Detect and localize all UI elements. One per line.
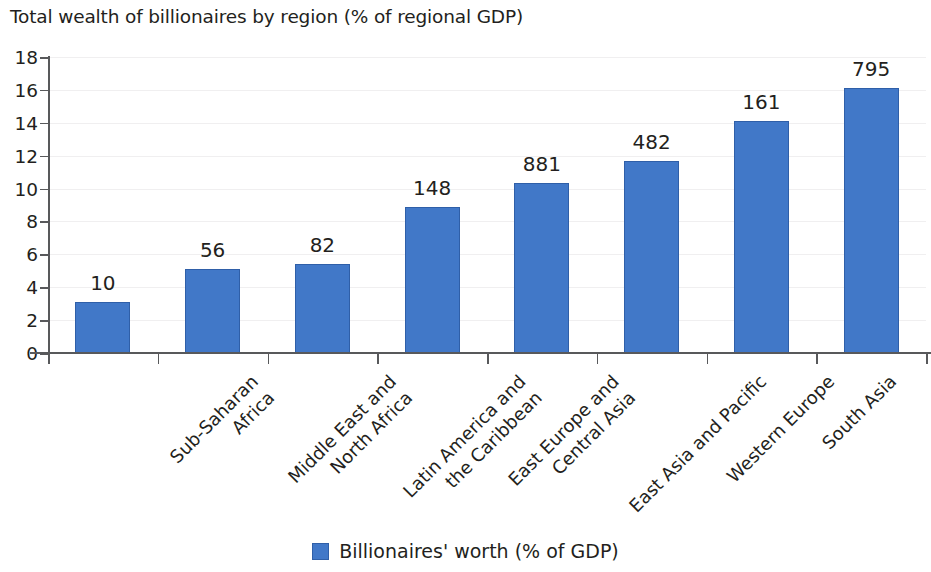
y-axis-tick-mark (40, 254, 49, 256)
legend-swatch-billionaires-worth (312, 543, 329, 560)
y-axis-tick-label: 10 (2, 178, 38, 199)
y-axis-tick-mark (40, 90, 49, 92)
bar (295, 264, 350, 353)
y-axis-tick-mark (40, 221, 49, 223)
bar (75, 302, 130, 353)
bar-value-label: 56 (200, 238, 225, 262)
bar (405, 207, 460, 353)
y-axis-tick-mark (40, 320, 49, 322)
bar-value-label: 795 (852, 57, 890, 81)
bar-value-label: 881 (523, 152, 561, 176)
x-axis-line (30, 352, 931, 354)
gridline (48, 57, 926, 58)
y-axis-tick-label: 4 (2, 277, 38, 298)
y-axis-tick-label: 12 (2, 145, 38, 166)
gridline (48, 287, 926, 288)
x-axis-category-label: Sub-SaharanAfrica (165, 370, 280, 485)
x-axis-category-label: Middle East andNorth Africa (283, 370, 418, 505)
chart-title: Total wealth of billionaires by region (… (10, 6, 523, 27)
y-axis-tick-label: 18 (2, 47, 38, 68)
chart-legend: Billionaires' worth (% of GDP) (0, 540, 931, 562)
y-axis-tick-label: 16 (2, 79, 38, 100)
y-axis-tick-mark (40, 57, 49, 59)
bar (844, 88, 899, 353)
bar (514, 183, 569, 353)
bar (624, 161, 679, 353)
y-axis-tick-label: 14 (2, 112, 38, 133)
bar-value-label: 82 (310, 233, 335, 257)
bar-value-label: 148 (413, 176, 451, 200)
x-axis-tick-mark (597, 353, 599, 364)
plot-area (48, 57, 926, 353)
gridline (48, 189, 926, 190)
y-axis-tick-mark (40, 189, 49, 191)
bar (734, 121, 789, 353)
bar-value-label: 161 (742, 90, 780, 114)
bar-value-label: 482 (633, 130, 671, 154)
y-axis-tick-labels: 024681012141618 (0, 0, 38, 572)
bar-chart: Total wealth of billionaires by region (… (0, 0, 931, 572)
x-axis-tick-mark (707, 353, 709, 364)
y-axis-tick-mark (40, 123, 49, 125)
gridline (48, 123, 926, 124)
bar-value-label: 10 (90, 271, 115, 295)
bar (185, 269, 240, 353)
gridlines (48, 57, 926, 353)
x-axis-tick-mark (158, 353, 160, 364)
gridline (48, 254, 926, 255)
x-axis-tick-mark (926, 353, 928, 364)
x-axis-tick-mark (377, 353, 379, 364)
y-axis-tick-mark (40, 156, 49, 158)
x-axis-tick-mark (48, 353, 50, 364)
gridline (48, 320, 926, 321)
gridline (48, 90, 926, 91)
x-axis-tick-mark (268, 353, 270, 364)
y-axis-tick-mark (40, 287, 49, 289)
y-axis-line (48, 56, 50, 354)
x-axis-tick-mark (816, 353, 818, 364)
x-axis-tick-mark (487, 353, 489, 364)
legend-label: Billionaires' worth (% of GDP) (339, 540, 619, 562)
y-axis-tick-label: 6 (2, 244, 38, 265)
gridline (48, 221, 926, 222)
gridline (48, 156, 926, 157)
y-axis-tick-label: 2 (2, 310, 38, 331)
y-axis-tick-label: 8 (2, 211, 38, 232)
